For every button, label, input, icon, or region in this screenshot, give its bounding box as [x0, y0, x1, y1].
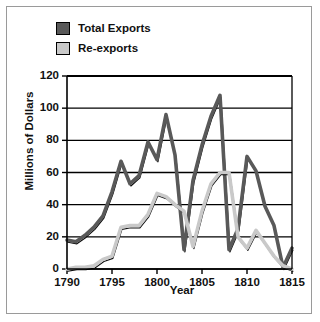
x-axis-title: Year: [67, 284, 297, 296]
figure-frame: Total Exports Re-exports 020406080100120…: [6, 6, 312, 314]
plot-area: 020406080100120 179017951800180518101815…: [7, 7, 313, 315]
y-tick-label: 120: [25, 70, 59, 81]
data-series-layer: [67, 95, 293, 271]
figure-canvas: Total Exports Re-exports 020406080100120…: [7, 7, 311, 313]
y-tick-label: 20: [25, 231, 59, 242]
y-tick-label: 0: [25, 263, 59, 274]
series-line-1: [67, 95, 292, 267]
y-axis-title: Millions of Dollars: [23, 81, 35, 201]
